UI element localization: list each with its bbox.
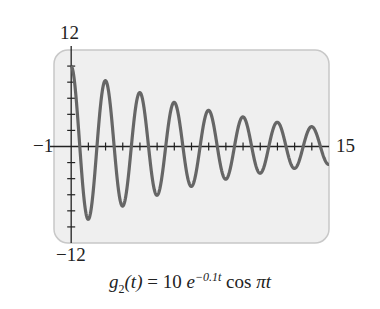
x-min-label: −1 — [33, 135, 53, 157]
caption-g: g — [109, 271, 119, 292]
y-max-label: 12 — [60, 22, 79, 44]
function-caption: g2(t) = 10 e−0.1t cos πt — [0, 270, 380, 297]
caption-exp: −0.1t — [195, 270, 221, 284]
caption-t2: t — [266, 271, 271, 292]
caption-t: (t) — [125, 271, 143, 292]
caption-e: e — [186, 271, 194, 292]
caption-pi: π — [256, 271, 266, 292]
caption-eq: = 10 — [142, 271, 186, 292]
y-min-label: −12 — [56, 244, 86, 266]
caption-cos: cos — [221, 271, 256, 292]
x-max-label: 15 — [336, 135, 355, 157]
